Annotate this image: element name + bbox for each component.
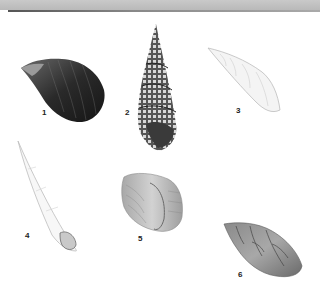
specimen-plate: 1 2 3: [0, 12, 320, 298]
header-band: [0, 0, 320, 10]
specimen-label-3: 3: [236, 106, 240, 115]
shell-6-illustration: [222, 222, 306, 280]
specimen-label-5: 5: [138, 234, 142, 243]
shell-5-illustration: [120, 171, 186, 233]
specimen-label-2: 2: [125, 108, 129, 117]
shell-3-illustration: [206, 46, 282, 116]
specimen-label-6: 6: [238, 270, 242, 279]
specimen-label-4: 4: [25, 231, 29, 240]
specimen-label-1: 1: [42, 108, 46, 117]
shell-1-illustration: [18, 56, 108, 124]
shell-2-illustration: [132, 24, 180, 152]
